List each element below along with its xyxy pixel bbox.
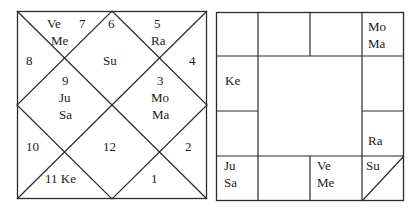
cell-r3c0: Ju Sa xyxy=(224,157,237,191)
cell-r3c3: Su xyxy=(366,157,380,174)
house-number-6: 6 xyxy=(108,17,115,31)
house-number-4: 4 xyxy=(189,54,196,68)
cell-r3c2: Ve Me xyxy=(317,157,334,191)
planet-sa: Sa xyxy=(59,108,72,122)
house-number-8: 8 xyxy=(26,54,33,68)
cell-r1c0: Ke xyxy=(225,72,240,89)
planet-ra: Ra xyxy=(151,34,165,48)
house-number-5: 5 xyxy=(154,17,161,31)
planet-me: Me xyxy=(51,34,68,48)
planet-ve: Ve xyxy=(47,17,61,31)
planet-su: Su xyxy=(103,54,117,68)
house-number-12: 12 xyxy=(103,140,116,154)
house-number-2: 2 xyxy=(185,140,192,154)
planet-mo: Mo xyxy=(151,91,169,105)
house-number-1: 1 xyxy=(151,172,158,186)
planet-ma: Ma xyxy=(152,108,169,122)
house-number-3: 3 xyxy=(157,74,164,88)
cell-r2c3: Ra xyxy=(368,132,382,149)
north-indian-chart: Ve 7 Me 6 5 Ra 8 Su 4 9 Ju Sa 3 Mo Ma 10… xyxy=(17,11,207,199)
house-number-10: 10 xyxy=(26,140,39,154)
house-number-11-ke: 11 Ke xyxy=(45,172,76,186)
south-indian-chart: Mo Ma Ke Ra Ju Sa Ve Me Su xyxy=(216,12,404,201)
house-number-7: 7 xyxy=(79,17,86,31)
house-number-9: 9 xyxy=(62,74,69,88)
planet-ju: Ju xyxy=(59,91,71,105)
cell-r0c3: Mo Ma xyxy=(368,18,386,52)
